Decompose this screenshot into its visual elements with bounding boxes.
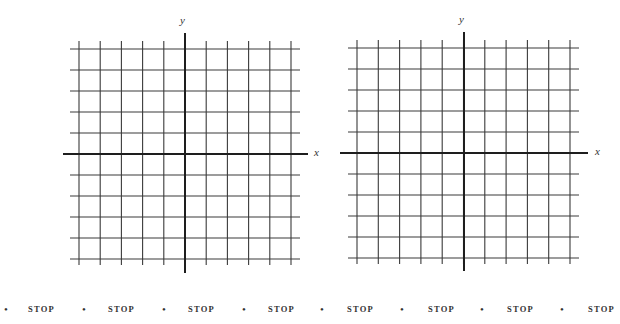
right-y-axis-label: y [459, 13, 464, 25]
stop-label: STOP [507, 300, 534, 318]
bullet-separator: • [320, 300, 324, 318]
right-coordinate-grid [0, 0, 620, 324]
right-x-axis-label: x [595, 145, 600, 157]
stop-label: STOP [28, 300, 55, 318]
left-y-axis-label: y [180, 14, 185, 26]
bullet-separator: • [400, 300, 404, 318]
right-grid-graphic [0, 0, 620, 324]
stop-label: STOP [428, 300, 455, 318]
stop-label: STOP [268, 300, 295, 318]
stop-label: STOP [588, 300, 615, 318]
left-x-axis-label: x [314, 146, 319, 158]
stop-row: • STOP • STOP • STOP • STOP • STOP • STO… [0, 300, 620, 320]
bullet-separator: • [82, 300, 86, 318]
bullet-separator: • [162, 300, 166, 318]
bullet-separator: • [480, 300, 484, 318]
bullet-separator: • [560, 300, 564, 318]
stop-label: STOP [188, 300, 215, 318]
bullet-separator: • [4, 300, 8, 318]
bullet-separator: • [242, 300, 246, 318]
stop-label: STOP [347, 300, 374, 318]
stop-label: STOP [108, 300, 135, 318]
